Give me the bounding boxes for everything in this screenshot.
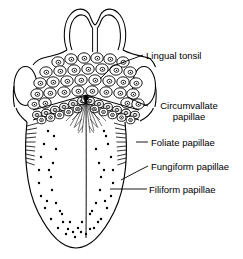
tongue-anatomy-figure: Lingual tonsil Circumvallate papillae Fo… [0,0,243,259]
label-circumvallate-papillae: Circumvallate papillae [150,100,228,122]
label-lingual-tonsil: Lingual tonsil [146,50,201,61]
label-circumvallate-line1: Circumvallate [160,100,218,111]
label-foliate-papillae: Foliate papillae [151,137,215,148]
label-circumvallate-line2: papillae [173,111,206,122]
epiglottis-icon [64,9,125,52]
tongue-diagram-svg [0,0,243,259]
label-fungiform-papillae: Fungiform papillae [151,161,229,172]
label-filiform-papillae: Filiform papillae [149,184,216,195]
tongue-body-outline [26,122,127,248]
